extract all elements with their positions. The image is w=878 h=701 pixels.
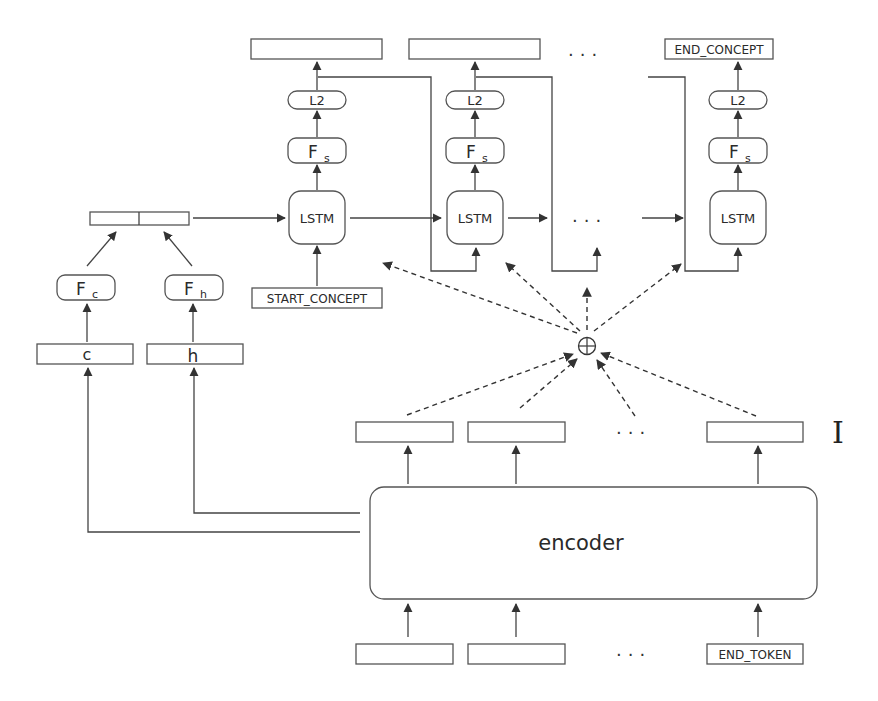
- svg-text:s: s: [745, 152, 751, 165]
- h-state-box: h: [147, 344, 243, 366]
- attention-combine-node: [579, 338, 596, 355]
- svg-text:END_TOKEN: END_TOKEN: [718, 648, 791, 662]
- svg-text:LSTM: LSTM: [458, 211, 493, 226]
- fs-label: F: [308, 142, 318, 162]
- svg-text:s: s: [324, 152, 330, 165]
- svg-text:h: h: [200, 288, 207, 301]
- decoder-step-2: L2 F s LSTM: [446, 62, 504, 244]
- svg-text:c: c: [83, 345, 92, 364]
- lstm-label: LSTM: [300, 211, 335, 226]
- lstm-ellipsis: ...: [572, 205, 607, 226]
- svg-text:c: c: [92, 288, 98, 301]
- c-state-box: c: [37, 344, 133, 364]
- svg-text:F: F: [729, 142, 739, 162]
- decoder-step-n: L2 F s LSTM: [709, 62, 767, 244]
- encoder-to-c-arrow: [88, 368, 360, 532]
- svg-text:END_CONCEPT: END_CONCEPT: [674, 43, 764, 57]
- svg-text:F: F: [76, 279, 86, 299]
- encoder-hidden-state-2: [468, 422, 565, 442]
- architecture-diagram: ... END_CONCEPT L2 F s LSTM START_CONCEP…: [0, 0, 878, 701]
- encoder-block: encoder: [370, 487, 817, 599]
- fh-block: F h: [165, 275, 223, 301]
- fh-to-state-arrow: [164, 232, 192, 266]
- input-ellipsis: ...: [616, 639, 651, 660]
- decoder-output-1: [251, 39, 382, 59]
- encoder-input-1: [356, 644, 453, 664]
- attention-context-arrows: [383, 263, 681, 333]
- svg-text:L2: L2: [730, 93, 746, 108]
- encoder-input-2: [468, 644, 565, 664]
- svg-text:START_CONCEPT: START_CONCEPT: [267, 292, 368, 306]
- svg-text:s: s: [482, 152, 488, 165]
- l2-label: L2: [309, 93, 325, 108]
- encoder-to-h-arrow: [194, 368, 360, 513]
- svg-text:h: h: [188, 346, 199, 366]
- encoder-input-end-token: END_TOKEN: [707, 644, 803, 664]
- svg-text:F: F: [466, 142, 476, 162]
- decoder-output-2: [409, 39, 540, 59]
- encoder-hidden-state-n: [707, 422, 803, 442]
- decoder-output-end-concept: END_CONCEPT: [665, 39, 773, 59]
- svg-text:F: F: [184, 279, 194, 299]
- encoder-hidden-state-1: [356, 422, 453, 442]
- svg-text:encoder: encoder: [538, 531, 624, 555]
- svg-text:LSTM: LSTM: [721, 211, 756, 226]
- fc-block: F c: [57, 275, 115, 301]
- hidden-ellipsis: ...: [616, 417, 651, 438]
- svg-text:L2: L2: [467, 93, 483, 108]
- output-ellipsis: ...: [568, 39, 603, 60]
- decoder-step-1: L2 F s LSTM: [288, 62, 346, 286]
- start-concept-token: START_CONCEPT: [252, 288, 382, 308]
- init-state-vector: [90, 212, 189, 225]
- attention-input-arrows: [407, 353, 756, 416]
- memory-label: I: [832, 415, 844, 450]
- fc-to-state-arrow: [87, 232, 116, 266]
